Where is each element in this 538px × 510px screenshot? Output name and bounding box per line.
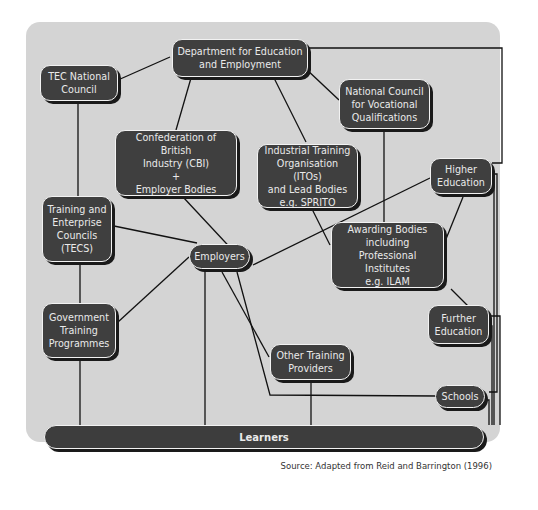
node-tec-national-council: TEC National Council	[40, 65, 118, 101]
node-employers: Employers	[189, 244, 250, 269]
node-further-education: Further Education	[428, 305, 489, 344]
node-tecs: Training and Enterprise Councils (TECS)	[42, 196, 112, 262]
node-higher-education: Higher Education	[430, 158, 492, 194]
source-caption: Source: Adapted from Reid and Barrington…	[281, 461, 492, 471]
node-cbi: Confederation of British Industry (CBI) …	[115, 130, 237, 196]
node-government-training: Government Training Programmes	[42, 303, 116, 358]
node-nvq: National Council for Vocational Qualific…	[339, 79, 430, 129]
node-ito: Industrial Training Organisation (ITOs) …	[257, 144, 358, 208]
node-awarding-bodies: Awarding Bodies including Professional I…	[331, 222, 444, 288]
node-schools: Schools	[435, 385, 485, 408]
node-dfee: Department for Education and Employment	[172, 39, 308, 77]
node-learners: Learners	[44, 425, 484, 449]
node-other-training-providers: Other Training Providers	[270, 344, 351, 380]
